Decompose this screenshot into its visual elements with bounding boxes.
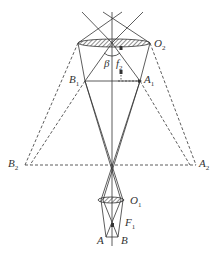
label-a: A: [97, 235, 104, 246]
label-f2: f2: [116, 58, 123, 72]
lens-o1: [98, 197, 124, 203]
optics-diagram: O2 β f2 B1 A1 B2 A2 O1 F1 A B: [0, 0, 217, 256]
label-o2: O2: [154, 38, 165, 52]
label-b: B: [121, 235, 128, 246]
label-a1: A1: [144, 74, 154, 88]
label-o1: O1: [130, 195, 141, 209]
focal-point-f1: [111, 223, 114, 227]
ray-diagram-svg: [0, 0, 217, 256]
label-a2: A2: [199, 158, 209, 172]
label-f1: F1: [125, 217, 135, 231]
label-b1: B1: [69, 74, 79, 88]
label-beta: β: [104, 58, 109, 69]
label-b2: B2: [8, 158, 18, 172]
lens-o2: [78, 39, 150, 47]
focal-point-f2-upper: [120, 46, 123, 50]
